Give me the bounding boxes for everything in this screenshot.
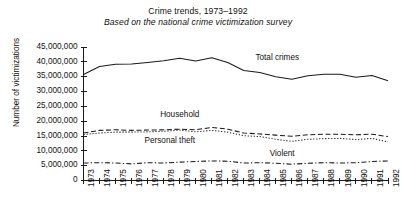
x-tick-label: 1973 — [87, 169, 96, 187]
x-tick-label: 1982 — [231, 169, 240, 187]
y-tick-label: 5,000,000 — [18, 160, 78, 169]
y-tick-label: 45,000,000 — [18, 42, 78, 51]
x-tick-label: 1975 — [119, 169, 128, 187]
x-tick-label: 1974 — [103, 169, 112, 187]
x-tick-label: 1983 — [247, 169, 256, 187]
series-line-violent — [84, 161, 389, 164]
x-tick-label: 1992 — [392, 169, 401, 187]
y-tick-label: 25,000,000 — [18, 101, 78, 110]
x-tick-label: 1984 — [263, 169, 272, 187]
x-tick-label: 1989 — [344, 169, 353, 187]
x-tick-label: 1978 — [167, 169, 176, 187]
x-tick-label: 1988 — [327, 169, 336, 187]
series-label-total-crimes: Total crimes — [255, 53, 299, 62]
x-tick-label: 1990 — [360, 169, 369, 187]
series-line-total-crimes — [84, 58, 389, 81]
series-label-household: Household — [160, 110, 199, 119]
series-label-personal-theft: Personal theft — [145, 136, 196, 145]
x-tick-label: 1985 — [279, 169, 288, 187]
series-label-violent: Violent — [270, 149, 295, 158]
series-lines — [84, 58, 389, 164]
y-tick-label: 10,000,000 — [18, 146, 78, 155]
x-tick-label: 1987 — [311, 169, 320, 187]
x-tick-label: 1979 — [183, 169, 192, 187]
x-tick-label: 1976 — [135, 169, 144, 187]
y-tick-label: 15,000,000 — [18, 131, 78, 140]
x-tick-label: 1991 — [376, 169, 385, 187]
x-tick-label: 1980 — [199, 169, 208, 187]
y-tick-label: 20,000,000 — [18, 116, 78, 125]
series-line-personal-theft — [84, 130, 389, 142]
y-tick-label: 30,000,000 — [18, 86, 78, 95]
y-tick-label: 0 — [18, 175, 78, 184]
x-tick-label: 1986 — [295, 169, 304, 187]
x-tick-label: 1977 — [151, 169, 160, 187]
x-tick-label: 1981 — [215, 169, 224, 187]
y-tick-label: 40,000,000 — [18, 57, 78, 66]
y-tick-label: 35,000,000 — [18, 71, 78, 80]
